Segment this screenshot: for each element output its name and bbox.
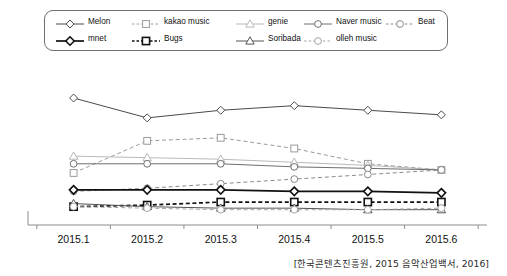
- x-tick-label: 2015.4: [267, 232, 321, 246]
- legend-label: Bugs: [164, 33, 183, 45]
- diamond-marker-icon: [55, 33, 85, 45]
- plot-area: [0, 60, 507, 230]
- x-tick-label: 2015.3: [194, 232, 248, 246]
- series-soribada: [69, 199, 445, 212]
- x-tick-label: 2015.6: [414, 232, 468, 246]
- legend-label: Naver music: [336, 16, 382, 28]
- legend-row: mnetBugsSoribadaolleh music: [45, 31, 447, 47]
- chart-legend: Melonkakao musicgenieNaver musicBeat mne…: [44, 10, 448, 51]
- legend-row: Melonkakao musicgenieNaver musicBeat: [45, 14, 447, 30]
- x-tick-label: 2015.2: [120, 232, 174, 246]
- legend-item-melon[interactable]: Melon: [55, 14, 110, 30]
- circle-marker-icon: [303, 16, 333, 28]
- circle-marker-icon: [303, 33, 333, 45]
- legend-item-kakao-music[interactable]: kakao music: [131, 14, 210, 30]
- legend-label: olleh music: [336, 33, 377, 45]
- legend-label: mnet: [88, 33, 106, 45]
- x-axis-tick-labels: 2015.12015.22015.32015.42015.52015.6: [0, 232, 507, 248]
- series-genie: [69, 152, 445, 173]
- diamond-marker-icon: [55, 16, 85, 28]
- legend-item-mnet[interactable]: mnet: [55, 31, 106, 47]
- line-chart-svg: [0, 60, 507, 230]
- square-marker-icon: [131, 33, 161, 45]
- legend-label: Soribada: [268, 33, 301, 45]
- legend-label: genie: [268, 16, 288, 28]
- triangle-marker-icon: [235, 16, 265, 28]
- series-kakao-music: [70, 134, 445, 176]
- legend-label: Beat: [418, 16, 435, 28]
- x-tick-label: 2015.5: [341, 232, 395, 246]
- legend-item-beat[interactable]: Beat: [385, 14, 435, 30]
- legend-label: kakao music: [164, 16, 210, 28]
- legend-item-soribada[interactable]: Soribada: [235, 31, 301, 47]
- chart-figure: Melonkakao musicgenieNaver musicBeat mne…: [0, 0, 507, 276]
- series-melon: [70, 94, 446, 122]
- x-tick-label: 2015.1: [47, 232, 101, 246]
- series-mnet: [69, 186, 445, 197]
- triangle-marker-icon: [235, 33, 265, 45]
- source-caption: [한국콘텐츠진흥원, 2015 음악산업백서, 2016]: [294, 256, 489, 270]
- legend-label: Melon: [88, 16, 110, 28]
- legend-item-bugs[interactable]: Bugs: [131, 31, 183, 47]
- legend-item-genie[interactable]: genie: [235, 14, 288, 30]
- square-marker-icon: [131, 16, 161, 28]
- legend-item-naver-music[interactable]: Naver music: [303, 14, 382, 30]
- circle-marker-icon: [385, 16, 415, 28]
- legend-item-olleh-music[interactable]: olleh music: [303, 31, 377, 47]
